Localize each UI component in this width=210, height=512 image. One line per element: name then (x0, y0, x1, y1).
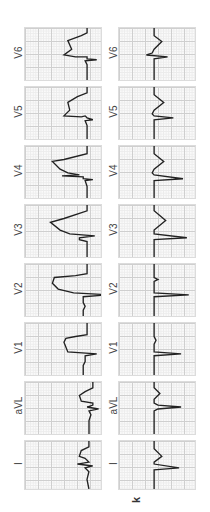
ecg-trace (119, 87, 195, 139)
ecg-trace (25, 28, 101, 80)
ecg-panel-left-v5 (24, 86, 102, 140)
ecg-panel-left-v4 (24, 145, 102, 199)
lead-label-avl: aVL (13, 394, 24, 418)
ecg-trace (119, 323, 195, 375)
lead-label-v4: V4 (108, 159, 119, 183)
ecg-trace (119, 264, 195, 316)
lead-label-v1: V1 (13, 336, 24, 360)
ecg-panel-right-v4 (118, 145, 196, 199)
ecg-panel-left-i (24, 440, 102, 490)
ecg-panel-left-v6 (24, 27, 102, 81)
ecg-trace (25, 382, 101, 434)
ecg-trace (119, 441, 195, 489)
ecg-panel-right-v5 (118, 86, 196, 140)
ecg-trace (25, 146, 101, 198)
lead-label-i: I (13, 452, 24, 476)
ecg-trace (119, 205, 195, 257)
lead-label-v6: V6 (108, 41, 119, 65)
ecg-panel-right-avl (118, 381, 196, 435)
ecg-trace (119, 146, 195, 198)
ecg-trace (25, 205, 101, 257)
ecg-trace (25, 87, 101, 139)
ecg-trace (25, 323, 101, 375)
ecg-trace (119, 382, 195, 434)
ecg-panel-left-v2 (24, 263, 102, 317)
lead-label-i: I (108, 452, 119, 476)
lead-label-v6: V6 (13, 41, 24, 65)
lead-label-v3: V3 (108, 218, 119, 242)
lead-label-v2: V2 (13, 277, 24, 301)
lead-label-v5: V5 (108, 100, 119, 124)
ecg-panel-right-v2 (118, 263, 196, 317)
ecg-trace (25, 441, 101, 489)
ecg-panel-right-v6 (118, 27, 196, 81)
lead-label-avl: aVL (108, 394, 119, 418)
figure-panel-label: k (130, 497, 142, 503)
ecg-panel-left-v1 (24, 322, 102, 376)
ecg-panel-right-v3 (118, 204, 196, 258)
lead-label-v4: V4 (13, 159, 24, 183)
ecg-trace (119, 28, 195, 80)
ecg-panel-left-v3 (24, 204, 102, 258)
lead-label-v1: V1 (108, 336, 119, 360)
ecg-panel-left-avl (24, 381, 102, 435)
ecg-panel-right-v1 (118, 322, 196, 376)
ecg-trace (25, 264, 101, 316)
ecg-panel-right-i (118, 440, 196, 490)
lead-label-v2: V2 (108, 277, 119, 301)
lead-label-v3: V3 (13, 218, 24, 242)
lead-label-v5: V5 (13, 100, 24, 124)
